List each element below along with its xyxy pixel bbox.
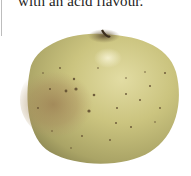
apple-icon bbox=[0, 0, 191, 176]
apple-figure bbox=[0, 0, 191, 176]
